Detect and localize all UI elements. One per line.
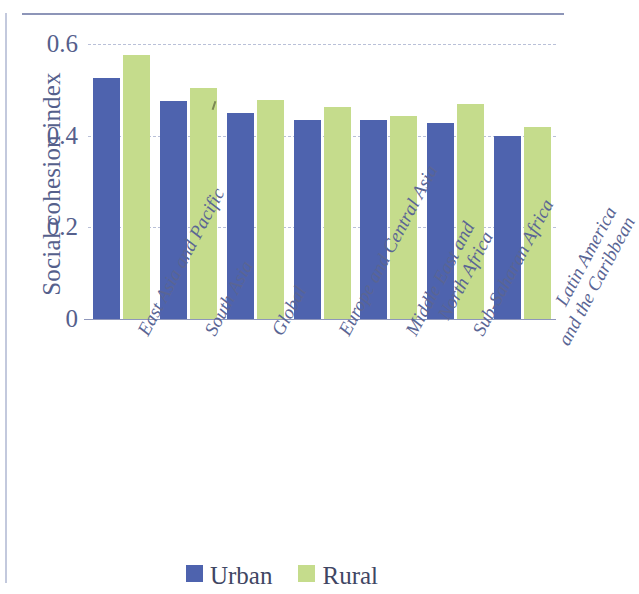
bar-urban	[227, 113, 254, 319]
bar-rural	[257, 100, 284, 319]
top-divider-rule	[22, 13, 564, 15]
left-border-rule	[5, 13, 7, 583]
x-category-label-line: Latin America	[550, 203, 620, 309]
bar-groups	[88, 44, 556, 319]
bar-urban	[494, 136, 521, 319]
bar-rural	[190, 88, 217, 319]
bar-urban	[93, 78, 120, 319]
x-axis-line	[84, 319, 556, 320]
bar-rural	[524, 127, 551, 320]
bar-rural	[390, 116, 417, 319]
bar-group	[294, 44, 351, 319]
bar-rural	[457, 104, 484, 319]
legend-swatch	[186, 565, 203, 582]
bar-group	[160, 44, 217, 319]
bar-group	[227, 44, 284, 319]
x-category-label-line: and the Caribbean	[553, 213, 639, 349]
legend-label: Urban	[210, 562, 272, 590]
bar-urban	[160, 101, 187, 319]
legend-label: Rural	[322, 562, 378, 590]
bar-urban	[427, 123, 454, 319]
bar-group	[427, 44, 484, 319]
bar-group	[93, 44, 150, 319]
bar-urban	[294, 120, 321, 319]
legend-swatch	[298, 565, 315, 582]
bar-group	[494, 44, 551, 319]
legend-item-urban[interactable]: Urban	[186, 562, 272, 590]
bar-rural	[324, 107, 351, 319]
y-axis-title: Social cohesion index	[38, 34, 66, 334]
bar-urban	[360, 120, 387, 319]
chart-legend: UrbanRural	[0, 562, 564, 590]
bar-rural	[123, 55, 150, 319]
legend-item-rural[interactable]: Rural	[298, 562, 378, 590]
plot-area	[88, 44, 556, 319]
bar-group	[360, 44, 417, 319]
